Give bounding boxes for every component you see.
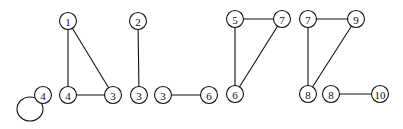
node-8: 8 — [300, 86, 317, 103]
node-8: 8 — [323, 86, 340, 103]
node-label: 6 — [206, 90, 212, 102]
node-7: 7 — [274, 11, 291, 28]
node-label: 7 — [305, 14, 311, 26]
nodes: 14342336576798810 — [35, 11, 389, 104]
node-label: 10 — [375, 89, 387, 101]
node-label: 6 — [232, 89, 238, 101]
node-label: 7 — [279, 14, 285, 26]
node-label: 3 — [110, 90, 116, 102]
node-6: 6 — [201, 87, 218, 104]
node-label: 4 — [65, 90, 71, 102]
node-label: 5 — [232, 14, 238, 26]
node-5: 5 — [227, 11, 244, 28]
node-label: 1 — [65, 16, 71, 28]
edge-2-3 — [138, 21, 139, 95]
edge-1-3 — [68, 21, 113, 95]
node-4: 4 — [35, 87, 52, 104]
node-label: 3 — [136, 90, 142, 102]
node-label: 4 — [40, 90, 46, 102]
node-1: 1 — [60, 13, 77, 30]
node-3: 3 — [131, 87, 148, 104]
node-6: 6 — [227, 86, 244, 103]
node-10: 10 — [372, 86, 389, 103]
node-label: 9 — [353, 14, 359, 26]
edges — [68, 19, 380, 95]
node-label: 3 — [160, 90, 166, 102]
node-9: 9 — [348, 11, 365, 28]
node-3: 3 — [155, 87, 172, 104]
node-label: 8 — [328, 89, 334, 101]
node-4: 4 — [60, 87, 77, 104]
node-2: 2 — [130, 13, 147, 30]
graph-diagram: 14342336576798810 — [0, 0, 403, 129]
edge-7-6 — [235, 19, 282, 94]
node-3: 3 — [105, 87, 122, 104]
edge-9-8 — [308, 19, 356, 94]
node-label: 2 — [135, 16, 141, 28]
node-7: 7 — [300, 11, 317, 28]
node-label: 8 — [305, 89, 311, 101]
